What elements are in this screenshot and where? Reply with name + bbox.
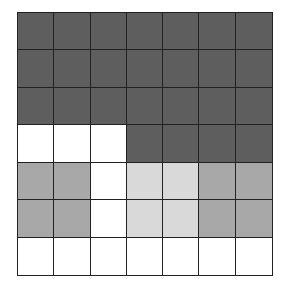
grid-cell xyxy=(236,163,272,200)
grid-cell xyxy=(163,50,199,87)
grid-cell xyxy=(18,50,54,87)
grid-cell xyxy=(127,238,163,275)
grid-cell xyxy=(236,13,272,50)
grid-cell xyxy=(91,200,127,237)
grid-cell xyxy=(236,238,272,275)
grid-cell xyxy=(18,13,54,50)
grid-cell xyxy=(54,88,90,125)
grid-cell xyxy=(236,88,272,125)
shaded-grid xyxy=(17,12,273,276)
grid-cell xyxy=(163,238,199,275)
grid-cell xyxy=(199,238,235,275)
grid-cell xyxy=(127,13,163,50)
grid-cell xyxy=(199,88,235,125)
grid-cell xyxy=(199,13,235,50)
grid-cell xyxy=(127,88,163,125)
grid-cell xyxy=(127,125,163,162)
grid-cell xyxy=(199,200,235,237)
grid-cell xyxy=(91,50,127,87)
grid-cell xyxy=(236,125,272,162)
grid-cell xyxy=(54,163,90,200)
grid-cell xyxy=(236,50,272,87)
grid-cell xyxy=(91,163,127,200)
grid-cell xyxy=(127,163,163,200)
grid-cell xyxy=(127,50,163,87)
grid-cell xyxy=(91,125,127,162)
grid-cell xyxy=(163,200,199,237)
grid-cell xyxy=(54,200,90,237)
grid-cell xyxy=(18,88,54,125)
grid-cell xyxy=(163,88,199,125)
grid-cell xyxy=(54,50,90,87)
grid-cell xyxy=(163,13,199,50)
grid-cell xyxy=(199,50,235,87)
grid-cell xyxy=(18,238,54,275)
grid-cell xyxy=(163,163,199,200)
grid-cell xyxy=(54,125,90,162)
grid-cell xyxy=(18,125,54,162)
grid-cell xyxy=(163,125,199,162)
grid-cell xyxy=(91,238,127,275)
grid-cell xyxy=(54,238,90,275)
grid-cell xyxy=(91,13,127,50)
grid-cell xyxy=(18,200,54,237)
grid-cell xyxy=(127,200,163,237)
grid-cell xyxy=(18,163,54,200)
grid-cell xyxy=(91,88,127,125)
grid-cell xyxy=(199,163,235,200)
grid-cell xyxy=(199,125,235,162)
grid-cell xyxy=(236,200,272,237)
grid-cell xyxy=(54,13,90,50)
